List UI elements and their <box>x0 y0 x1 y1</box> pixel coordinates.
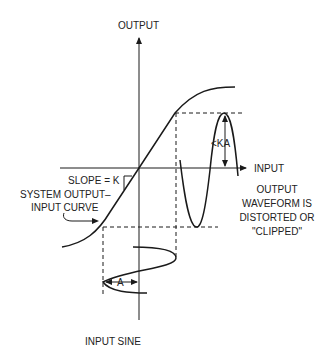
slope-label: SLOPE = K <box>68 175 120 186</box>
output-axis-label: OUTPUT <box>118 20 159 31</box>
amplitude-label: A <box>117 277 124 288</box>
system-output-input-curve <box>62 87 235 247</box>
ka-label: <KA <box>211 138 231 149</box>
transfer-curve-diagram: OUTPUT INPUT <KA SLOPE = K SYSTEM OUTPUT… <box>0 0 324 357</box>
input-axis-label: INPUT <box>254 163 284 174</box>
curve-label-line1: SYSTEM OUTPUT– <box>20 189 111 200</box>
input-sine-label: INPUT SINE <box>85 336 141 347</box>
curve-label-line2: INPUT CURVE <box>31 202 99 213</box>
output-waveform-label-4: "CLIPPED" <box>252 226 302 237</box>
output-waveform-label-1: OUTPUT <box>256 184 297 195</box>
curve-pointer-arrow <box>63 213 96 221</box>
output-waveform-label-2: WAVEFORM IS <box>242 198 312 209</box>
output-waveform-label-3: DISTORTED OR <box>239 212 314 223</box>
output-waveform <box>180 113 238 227</box>
